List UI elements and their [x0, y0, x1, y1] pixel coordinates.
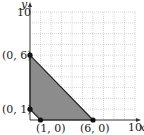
feasible-region-graph: y 10 10 x (0, 6) (0, 1) (1, 0) (6, 0)	[0, 0, 144, 135]
x-axis-label: x	[139, 121, 144, 134]
label-point-1-0: (1, 0)	[36, 122, 66, 135]
label-point-0-6: (0, 6)	[2, 49, 32, 62]
y-max-tick-label: 10	[17, 6, 31, 19]
label-point-0-1: (0, 1)	[2, 103, 32, 116]
label-point-6-0: (6, 0)	[80, 122, 110, 135]
